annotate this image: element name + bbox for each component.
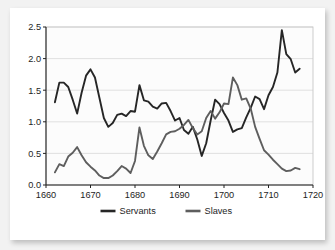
x-axis-ticks: 1660167016801690170017101720: [36, 185, 323, 200]
page-background: 0.00.51.01.52.02.5 166016701680169017001…: [0, 0, 335, 250]
y-tick-label-1.0: 1.0: [28, 117, 41, 127]
y-tick-label-2.0: 2.0: [28, 54, 41, 64]
chart-card: 0.00.51.01.52.02.5 166016701680169017001…: [10, 8, 325, 240]
chart-legend: ServantsSlaves: [101, 206, 233, 216]
x-tick-label-1670: 1670: [80, 190, 100, 200]
line-chart: 0.00.51.01.52.02.5 166016701680169017001…: [10, 8, 325, 240]
y-axis-ticks: 0.00.51.01.52.02.5: [28, 22, 46, 190]
x-tick-label-1660: 1660: [36, 190, 56, 200]
y-tick-label-0.5: 0.5: [28, 149, 41, 159]
x-tick-label-1690: 1690: [169, 190, 189, 200]
x-tick-label-1720: 1720: [303, 190, 323, 200]
legend-label-slaves: Slaves: [205, 206, 233, 216]
x-tick-label-1680: 1680: [125, 190, 145, 200]
x-tick-label-1710: 1710: [258, 190, 278, 200]
x-tick-label-1700: 1700: [214, 190, 234, 200]
y-tick-label-2.5: 2.5: [28, 22, 41, 32]
legend-label-servants: Servants: [120, 206, 157, 216]
chart-canvas: 0.00.51.01.52.02.5 166016701680169017001…: [10, 8, 325, 240]
y-tick-label-0.0: 0.0: [28, 180, 41, 190]
y-tick-label-1.5: 1.5: [28, 86, 41, 96]
